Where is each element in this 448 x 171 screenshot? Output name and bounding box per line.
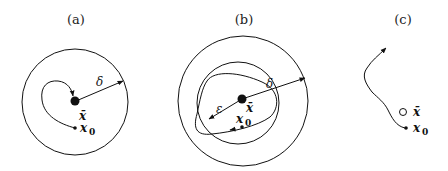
panel-b-title: (b): [235, 12, 253, 27]
equilibrium-point-hollow: [400, 109, 407, 116]
panel-a: (a) δ x̄ x 0: [22, 12, 128, 155]
delta-label: δ: [96, 75, 103, 89]
diverging-trajectory-curve: [364, 48, 405, 128]
x0-subscript: 0: [422, 127, 428, 137]
epsilon-label: ε: [216, 102, 222, 116]
x0-subscript: 0: [245, 118, 251, 128]
delta-label: δ: [266, 77, 273, 91]
delta-radius-arrow: [242, 78, 305, 99]
stability-diagram: (a) δ x̄ x 0 (b) δ ε x̄ x 0 (c): [0, 0, 448, 171]
trajectory-curve: [42, 81, 75, 128]
x0-label: x: [235, 112, 244, 126]
x0-label: x: [79, 121, 88, 135]
panel-b: (b) δ ε x̄ x 0: [178, 12, 308, 166]
initial-point: [404, 126, 408, 130]
panel-a-title: (a): [67, 12, 85, 27]
initial-point: [73, 126, 77, 130]
equilibrium-point: [71, 97, 80, 106]
xbar-label: x̄: [412, 105, 421, 119]
panel-c-title: (c): [394, 12, 411, 27]
panel-c: (c) x̄ x 0: [364, 12, 428, 137]
x0-subscript: 0: [89, 127, 95, 137]
x0-label: x: [412, 121, 421, 135]
xbar-label: x̄: [245, 101, 254, 115]
